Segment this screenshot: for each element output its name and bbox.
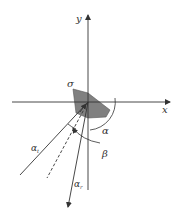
alpha-t-label: αt: [31, 143, 40, 154]
alpha-r-label: αr: [74, 179, 83, 190]
beta-label: β: [101, 148, 108, 159]
sigma-label: σ: [67, 78, 75, 89]
diagram-canvas: y x σ α β αt αr: [0, 0, 183, 220]
sigma-region: [73, 89, 110, 118]
alpha-r-arrow: [68, 102, 88, 207]
beta-arc: [73, 128, 100, 143]
alpha-label: α: [102, 125, 109, 136]
y-axis-label: y: [75, 13, 82, 24]
x-axis-label: x: [162, 104, 168, 115]
alpha-t-line: [20, 102, 88, 175]
